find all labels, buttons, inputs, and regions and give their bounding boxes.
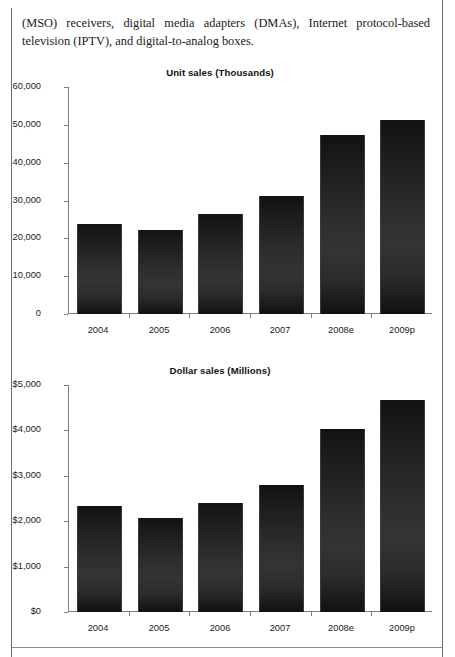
y-axis-tick-label: $0 <box>0 606 41 616</box>
y-axis-tick <box>64 125 68 126</box>
x-axis-tick-label: 2004 <box>68 325 128 335</box>
y-axis-tick-label: 10,000 <box>0 270 41 280</box>
x-axis-tick <box>250 612 251 616</box>
y-axis <box>68 87 69 314</box>
y-axis-tick <box>64 163 68 164</box>
x-axis-tick <box>371 314 372 318</box>
y-axis-tick <box>64 521 68 522</box>
y-axis <box>68 385 69 612</box>
x-axis-tick-label: 2005 <box>129 325 189 335</box>
y-axis-tick-label: $5,000 <box>0 379 41 389</box>
x-axis-tick-label: 2006 <box>190 325 250 335</box>
x-axis-tick <box>371 612 372 616</box>
y-axis-tick <box>64 276 68 277</box>
x-axis-tick-label: 2005 <box>129 623 189 633</box>
chart-title: Dollar sales (Millions) <box>0 365 440 376</box>
y-axis-tick <box>64 87 68 88</box>
bar-2006 <box>198 214 243 314</box>
y-axis-tick <box>64 476 68 477</box>
bar-2008e <box>320 429 365 612</box>
y-axis-tick-label: $2,000 <box>0 515 41 525</box>
x-axis-tick-label: 2008e <box>311 325 371 335</box>
y-axis-tick <box>64 385 68 386</box>
x-axis-tick <box>189 314 190 318</box>
bar-2006 <box>198 503 243 612</box>
y-axis-tick <box>64 430 68 431</box>
x-axis-tick <box>129 612 130 616</box>
x-axis-tick <box>129 314 130 318</box>
x-axis-tick-label: 2009p <box>372 623 432 633</box>
bar-2009p <box>380 120 425 314</box>
y-axis-tick <box>64 314 68 315</box>
x-axis-tick-label: 2007 <box>250 325 310 335</box>
body-paragraph: (MSO) receivers, digital media adapters … <box>22 15 430 50</box>
y-axis-tick <box>64 567 68 568</box>
x-axis-tick-label: 2004 <box>68 623 128 633</box>
bar-2005 <box>138 518 183 612</box>
plot-area: 010,00020,00030,00040,00050,00060,000200… <box>68 87 432 314</box>
x-axis-tick-label: 2007 <box>250 623 310 633</box>
x-axis-tick <box>189 612 190 616</box>
y-axis-tick-label: 50,000 <box>0 119 41 129</box>
x-axis-tick-label: 2006 <box>190 623 250 633</box>
x-axis-tick <box>311 612 312 616</box>
bar-2007 <box>259 196 304 314</box>
x-axis-tick <box>250 314 251 318</box>
y-axis-tick-label: $4,000 <box>0 424 41 434</box>
bar-2007 <box>259 485 304 612</box>
page-border-bottom <box>12 647 442 648</box>
y-axis-tick-label: 20,000 <box>0 232 41 242</box>
y-axis-tick-label: $1,000 <box>0 561 41 571</box>
y-axis-tick <box>64 612 68 613</box>
y-axis-tick <box>64 238 68 239</box>
bar-2009p <box>380 400 425 612</box>
chart-title: Unit sales (Thousands) <box>0 67 440 78</box>
chart-unit-sales: Unit sales (Thousands) 010,00020,00030,0… <box>0 67 455 347</box>
y-axis-tick-label: 0 <box>0 308 41 318</box>
y-axis-tick-label: 60,000 <box>0 81 41 91</box>
y-axis-tick <box>64 201 68 202</box>
y-axis-tick-label: 40,000 <box>0 157 41 167</box>
bar-2004 <box>77 224 122 314</box>
bar-2004 <box>77 506 122 612</box>
x-axis-tick-label: 2009p <box>372 325 432 335</box>
chart-dollar-sales: Dollar sales (Millions) $0$1,000$2,000$3… <box>0 365 455 645</box>
bar-2008e <box>320 135 365 314</box>
bar-2005 <box>138 230 183 314</box>
plot-area: $0$1,000$2,000$3,000$4,000$5,00020042005… <box>68 385 432 612</box>
y-axis-tick-label: $3,000 <box>0 470 41 480</box>
y-axis-tick-label: 30,000 <box>0 195 41 205</box>
x-axis-tick-label: 2008e <box>311 623 371 633</box>
x-axis-tick <box>311 314 312 318</box>
